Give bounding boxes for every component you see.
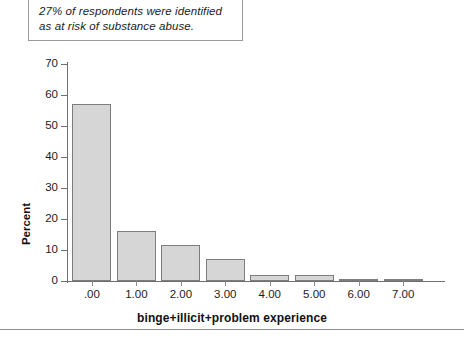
annotation-callout: 27% of respondents were identified as at… bbox=[28, 0, 243, 41]
x-axis-line bbox=[67, 281, 445, 282]
x-tick bbox=[270, 281, 271, 286]
chart-page: 27% of respondents were identified as at… bbox=[0, 0, 464, 346]
x-tick bbox=[359, 281, 360, 286]
y-tick-label: 30 bbox=[18, 181, 58, 193]
y-tick-label: 40 bbox=[18, 150, 58, 162]
bar bbox=[72, 104, 111, 281]
x-tick bbox=[92, 281, 93, 286]
x-tick bbox=[314, 281, 315, 286]
footer-divider bbox=[0, 329, 464, 330]
y-tick-label: 20 bbox=[18, 212, 58, 224]
x-axis-title: binge+illicit+problem experience bbox=[0, 311, 464, 325]
x-tick bbox=[181, 281, 182, 286]
x-tick bbox=[136, 281, 137, 286]
y-tick-label: 70 bbox=[18, 57, 58, 69]
annotation-line-1: 27% of respondents were identified bbox=[39, 4, 234, 19]
bar-chart: Percent 010203040506070 .001.002.003.004… bbox=[0, 52, 464, 310]
x-tick bbox=[225, 281, 226, 286]
bar bbox=[117, 231, 156, 281]
x-tick-label: 7.00 bbox=[373, 288, 433, 300]
annotation-line-2: as at risk of substance abuse. bbox=[39, 19, 234, 34]
plot-area bbox=[67, 64, 445, 281]
x-tick bbox=[403, 281, 404, 286]
bar bbox=[206, 259, 245, 281]
y-tick bbox=[61, 281, 67, 282]
y-tick-label: 60 bbox=[18, 88, 58, 100]
bar bbox=[161, 245, 200, 281]
y-tick-label: 50 bbox=[18, 119, 58, 131]
y-tick-label: 0 bbox=[18, 274, 58, 286]
y-tick-label: 10 bbox=[18, 243, 58, 255]
